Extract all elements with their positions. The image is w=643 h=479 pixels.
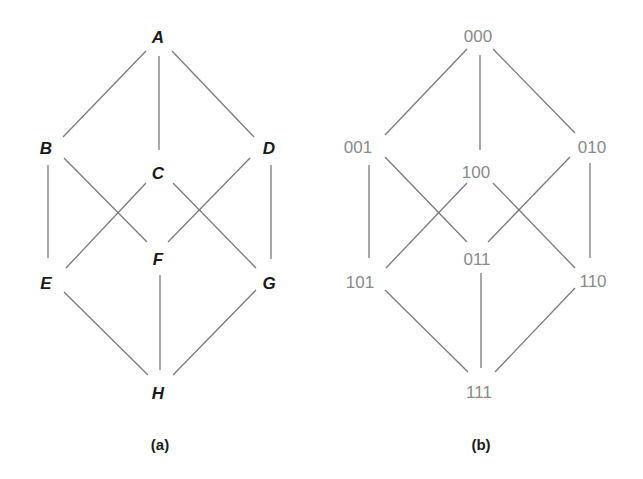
node-b: B xyxy=(40,139,52,158)
panel-b: 000 001 100 010 101 011 110 111 (b) xyxy=(344,27,607,453)
edge-c-g xyxy=(173,183,256,268)
node-000: 000 xyxy=(464,27,492,46)
node-001: 001 xyxy=(344,138,372,157)
edge-c-e xyxy=(66,183,146,268)
panel-b-nodes: 000 001 100 010 101 011 110 111 xyxy=(344,27,607,402)
node-100: 100 xyxy=(462,163,490,182)
node-101: 101 xyxy=(346,273,374,292)
node-h: H xyxy=(152,384,165,403)
edge-001-011 xyxy=(385,157,467,242)
edge-100-110 xyxy=(493,183,575,268)
edge-d-f xyxy=(168,158,250,242)
edge-a-b xyxy=(63,51,146,137)
node-111: 111 xyxy=(466,383,492,402)
edge-e-h xyxy=(64,292,148,375)
node-c: C xyxy=(152,164,165,183)
panel-b-edges xyxy=(369,49,590,372)
edge-101-111 xyxy=(385,290,468,372)
edge-000-001 xyxy=(385,49,467,135)
panel-a: A B C D E F G H (a) xyxy=(40,28,276,453)
node-110: 110 xyxy=(579,272,606,291)
node-010: 010 xyxy=(578,138,606,157)
node-a: A xyxy=(151,28,164,47)
edge-b-f xyxy=(64,158,147,242)
edge-g-h xyxy=(173,290,256,375)
edge-100-101 xyxy=(386,183,467,268)
node-d: D xyxy=(263,139,275,158)
edge-a-d xyxy=(172,51,254,137)
node-e: E xyxy=(40,274,52,293)
panel-a-nodes: A B C D E F G H xyxy=(40,28,276,403)
edge-000-010 xyxy=(493,49,575,133)
caption-b: (b) xyxy=(471,436,490,453)
caption-a: (a) xyxy=(151,436,169,453)
panel-a-edges xyxy=(48,51,271,375)
hypercube-diagram: A B C D E F G H (a) 000 001 xyxy=(0,0,643,479)
node-g: G xyxy=(262,274,275,293)
edge-110-111 xyxy=(495,288,575,372)
node-f: F xyxy=(153,250,164,269)
node-011: 011 xyxy=(463,250,490,269)
edge-010-011 xyxy=(488,157,570,242)
